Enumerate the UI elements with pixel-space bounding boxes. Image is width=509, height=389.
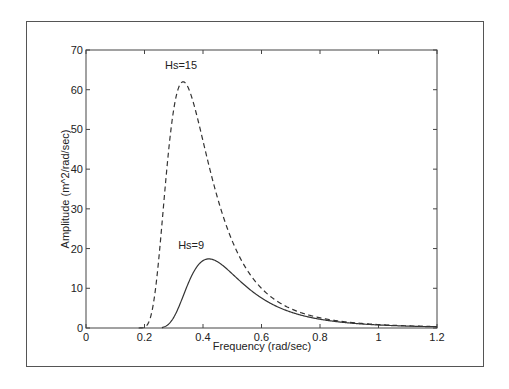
y-tick-label: 40 <box>71 163 83 175</box>
y-axis-label: Amplitude (m^2/rad/sec) <box>59 130 71 249</box>
series-line-hs-15 <box>139 82 437 328</box>
spectrum-chart: 00.20.40.60.811.2 010203040506070 Hs=15H… <box>0 0 509 389</box>
y-tick-label: 0 <box>77 322 83 334</box>
y-tick-label: 70 <box>71 44 83 56</box>
annotation-label: Hs=9 <box>178 239 204 251</box>
x-tick-label: 0.2 <box>137 331 152 343</box>
y-axis: 010203040506070 <box>71 44 437 334</box>
series-line-hs-9 <box>162 259 437 328</box>
plot-area <box>86 50 437 328</box>
x-tick-label: 0.4 <box>195 331 210 343</box>
x-tick-label: 0.8 <box>312 331 327 343</box>
x-tick-label: 1 <box>375 331 381 343</box>
y-tick-label: 30 <box>71 203 83 215</box>
x-tick-label: 0 <box>83 331 89 343</box>
axes-box <box>86 50 437 328</box>
y-tick-label: 20 <box>71 243 83 255</box>
y-tick-label: 60 <box>71 84 83 96</box>
series-group <box>139 82 437 328</box>
y-tick-label: 10 <box>71 282 83 294</box>
annotations: Hs=15Hs=9 <box>165 59 204 251</box>
x-tick-label: 1.2 <box>429 331 444 343</box>
y-tick-label: 50 <box>71 123 83 135</box>
x-axis-label: Frequency (rad/sec) <box>213 340 311 352</box>
annotation-label: Hs=15 <box>165 59 197 71</box>
